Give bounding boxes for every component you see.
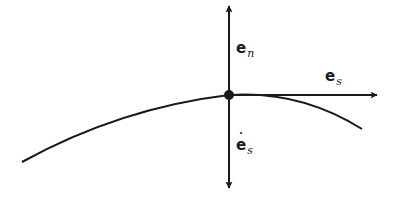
diagram-canvas: en es ˙es: [0, 0, 402, 197]
trajectory-curve: [22, 94, 362, 162]
label-e-n: en: [236, 40, 254, 56]
label-e-s: es: [325, 68, 342, 84]
label-e-n-subscript: n: [247, 47, 254, 60]
label-e-s-dot-accent: ˙: [238, 132, 245, 146]
label-e-s-dot: ˙es: [236, 137, 253, 153]
label-e-s-subscript: s: [336, 75, 342, 88]
diagram-svg: [0, 0, 402, 197]
point-marker: [224, 90, 234, 100]
label-e-s-dot-subscript: s: [247, 144, 253, 157]
label-e-s-base: e: [325, 67, 335, 85]
label-e-n-base: e: [236, 39, 246, 57]
